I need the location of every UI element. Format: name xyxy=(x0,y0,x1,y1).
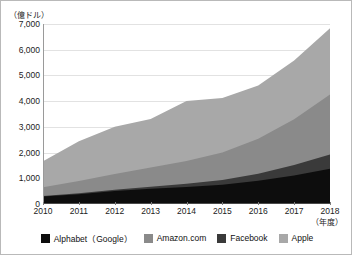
legend-label: Amazon.com xyxy=(157,233,207,243)
legend-label: Facebook xyxy=(230,233,267,243)
x-tick-mark-2016 xyxy=(258,202,259,205)
x-axis-tick-2018: 2018 xyxy=(321,206,340,216)
y-axis-tick-6000: 6,000 xyxy=(19,45,40,55)
x-tick-mark-2012 xyxy=(115,202,116,205)
x-axis-tick-labels: 201020112012201320142015201620172018 xyxy=(43,206,330,218)
legend-swatch-icon xyxy=(144,234,153,243)
y-axis-tick-7000: 7,000 xyxy=(19,19,40,29)
y-axis-tick-4000: 4,000 xyxy=(19,96,40,106)
y-axis-tick-5000: 5,000 xyxy=(19,70,40,80)
stacked-area-series xyxy=(43,24,330,204)
legend-swatch-icon xyxy=(217,234,226,243)
chart-legend: Alphabet（Google）Amazon.comFacebookApple xyxy=(1,232,353,244)
x-axis-note: （年度） xyxy=(311,216,343,227)
x-axis-tick-2016: 2016 xyxy=(249,206,268,216)
legend-item-Facebook: Facebook xyxy=(217,233,267,243)
legend-swatch-icon xyxy=(41,234,50,243)
x-tick-mark-2010 xyxy=(43,202,44,205)
plot-area xyxy=(43,24,330,204)
x-tick-mark-2011 xyxy=(79,202,80,205)
legend-item-Alphabet（Google）: Alphabet（Google） xyxy=(41,232,133,244)
y-axis-tick-3000: 3,000 xyxy=(19,122,40,132)
x-axis-tick-2017: 2017 xyxy=(285,206,304,216)
x-tick-mark-2017 xyxy=(294,202,295,205)
y-axis-tick-labels: 01,0002,0003,0004,0005,0006,0007,000 xyxy=(1,24,40,204)
legend-item-Apple: Apple xyxy=(279,233,314,243)
y-axis-tick-2000: 2,000 xyxy=(19,148,40,158)
x-tick-mark-2014 xyxy=(187,202,188,205)
y-axis-tick-1000: 1,000 xyxy=(19,173,40,183)
legend-label: Alphabet（Google） xyxy=(54,232,133,244)
chart-figure: （億ドル） 01,0002,0003,0004,0005,0006,0007,0… xyxy=(0,0,352,255)
x-axis-tick-2012: 2012 xyxy=(105,206,124,216)
x-axis-tick-2015: 2015 xyxy=(213,206,232,216)
x-axis-tick-2011: 2011 xyxy=(70,206,88,216)
x-tick-mark-2018 xyxy=(330,202,331,205)
x-axis-tick-2010: 2010 xyxy=(34,206,53,216)
x-axis-tick-2014: 2014 xyxy=(177,206,196,216)
legend-item-Amazon.com: Amazon.com xyxy=(144,233,207,243)
y-axis-line xyxy=(43,24,44,204)
area-svg xyxy=(43,24,330,204)
legend-label: Apple xyxy=(292,233,314,243)
legend-swatch-icon xyxy=(279,234,288,243)
x-axis-tick-2013: 2013 xyxy=(141,206,160,216)
x-tick-mark-2013 xyxy=(151,202,152,205)
x-tick-mark-2015 xyxy=(222,202,223,205)
